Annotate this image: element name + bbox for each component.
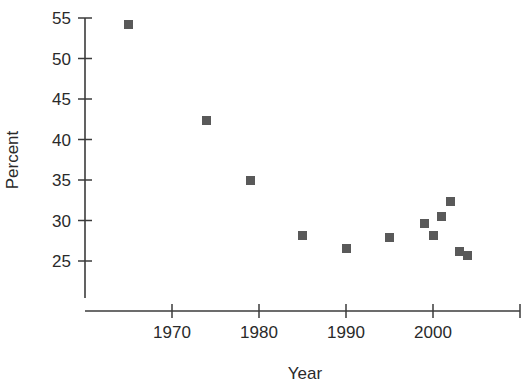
- data-point-marker: [202, 116, 211, 125]
- y-axis-tick-label: 45: [52, 90, 71, 109]
- y-axis-group: 25303540455055: [52, 9, 92, 298]
- y-axis-tick-label: 30: [52, 212, 71, 231]
- y-axis-tick-label: 55: [52, 9, 71, 28]
- data-point-marker: [385, 233, 394, 242]
- y-axis-tick-label: 40: [52, 131, 71, 150]
- x-axis-tick-label: 1990: [327, 323, 365, 342]
- y-axis-title: Percent: [3, 130, 22, 189]
- data-point-marker: [455, 247, 464, 256]
- data-point-marker: [298, 231, 307, 240]
- data-point-marker: [124, 20, 133, 29]
- data-point-marker: [446, 197, 455, 206]
- chart-canvas: 25303540455055 1970198019902000 Year Per…: [0, 0, 530, 388]
- data-point-marker: [463, 251, 472, 260]
- y-axis-tick-label: 25: [52, 252, 71, 271]
- y-axis-tick-label: 35: [52, 171, 71, 190]
- data-point-markers: [124, 20, 472, 260]
- x-axis-group: 1970198019902000: [85, 304, 520, 342]
- y-axis-ticks: 25303540455055: [52, 9, 92, 271]
- x-axis-tick-label: 2000: [414, 323, 452, 342]
- data-point-marker: [342, 244, 351, 253]
- x-axis-title: Year: [288, 364, 323, 383]
- data-point-marker: [420, 219, 429, 228]
- y-axis-tick-label: 50: [52, 50, 71, 69]
- data-point-marker: [429, 231, 438, 240]
- x-axis-tick-label: 1970: [153, 323, 191, 342]
- x-axis-ticks: 1970198019902000: [153, 304, 520, 342]
- x-axis-tick-label: 1980: [240, 323, 278, 342]
- scatter-chart: 25303540455055 1970198019902000 Year Per…: [0, 0, 530, 388]
- data-point-marker: [246, 176, 255, 185]
- data-point-marker: [437, 212, 446, 221]
